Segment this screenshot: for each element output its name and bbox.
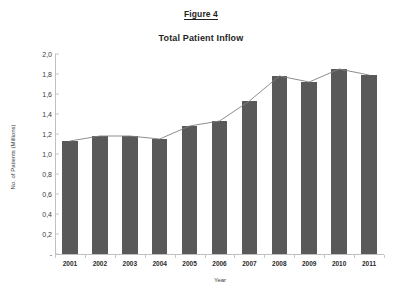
x-tick-label: 2005 (182, 260, 196, 267)
bar-2011 (361, 75, 377, 254)
bar-2009 (301, 82, 317, 254)
y-tick-label: 2,0 (28, 51, 52, 58)
bar-2010 (331, 69, 347, 254)
bar-2003 (122, 136, 138, 254)
plot-area: No. of Patients (Millions) 2,01,81,61,41… (0, 0, 402, 297)
y-tick-label: 0,8 (28, 171, 52, 178)
x-tick-label: 2001 (63, 260, 77, 267)
y-tick-label: 0,2 (28, 231, 52, 238)
bar-2004 (152, 139, 168, 254)
y-axis-title: No. of Patients (Millions) (10, 87, 16, 227)
x-tick-label: 2004 (152, 260, 166, 267)
x-tick-mark (384, 255, 385, 258)
y-tick-label: 1,6 (28, 91, 52, 98)
y-tick-label: 0,4 (28, 211, 52, 218)
y-tick-label: - (28, 251, 52, 258)
x-tick-label: 2006 (212, 260, 226, 267)
y-tick-label: 0,6 (28, 191, 52, 198)
figure-container: Figure 4 Total Patient Inflow No. of Pat… (0, 0, 402, 297)
bars-layer (55, 0, 384, 297)
bar-2005 (182, 126, 198, 254)
y-tick-labels: 2,01,81,61,41,21,00,80,60,40,2- (28, 0, 52, 297)
bar-2008 (272, 76, 288, 254)
x-tick-label: 2011 (362, 260, 376, 267)
y-tick-label: 1,2 (28, 131, 52, 138)
bar-2006 (212, 121, 228, 254)
x-tick-label: 2007 (242, 260, 256, 267)
y-tick-label: 1,0 (28, 151, 52, 158)
x-tick-label: 2009 (302, 260, 316, 267)
x-tick-label: 2008 (272, 260, 286, 267)
x-axis-title: Year (55, 277, 385, 283)
x-tick-label: 2002 (93, 260, 107, 267)
y-tick-label: 1,8 (28, 71, 52, 78)
x-tick-label: 2003 (123, 260, 137, 267)
bar-2002 (92, 136, 108, 254)
bar-2007 (242, 101, 258, 254)
x-tick-label: 2010 (332, 260, 346, 267)
bar-2001 (62, 141, 78, 254)
y-tick-label: 1,4 (28, 111, 52, 118)
